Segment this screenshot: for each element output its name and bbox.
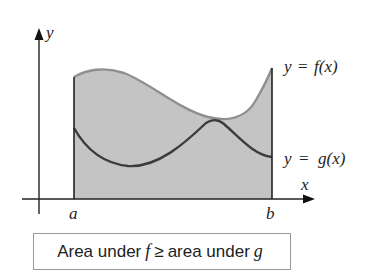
upper-limit-label-b: b bbox=[266, 204, 275, 223]
svg-text:g(x): g(x) bbox=[318, 149, 346, 168]
svg-text:f(x): f(x) bbox=[314, 57, 338, 76]
svg-text:=: = bbox=[299, 149, 309, 168]
svg-text:y: y bbox=[282, 149, 292, 168]
caption-g-symbol: g bbox=[254, 241, 263, 262]
caption-box: Area under f ≥ area under g bbox=[33, 233, 291, 270]
g-curve-label: y = g(x) bbox=[282, 149, 346, 168]
x-axis-arrow-icon bbox=[303, 195, 315, 204]
x-axis-label: x bbox=[300, 175, 309, 194]
y-axis-label: y bbox=[44, 23, 54, 42]
caption-prefix: Area under bbox=[57, 242, 141, 262]
shaded-area-under-f bbox=[74, 68, 272, 199]
lower-limit-label-a: a bbox=[69, 204, 78, 223]
caption-relation: ≥ bbox=[154, 242, 163, 262]
caption-f-symbol: f bbox=[145, 241, 150, 262]
svg-text:y: y bbox=[282, 57, 292, 76]
f-curve-label: y = f(x) bbox=[282, 57, 338, 76]
svg-text:=: = bbox=[298, 57, 308, 76]
caption-middle: area under bbox=[168, 242, 250, 262]
y-axis-arrow-icon bbox=[35, 28, 44, 40]
